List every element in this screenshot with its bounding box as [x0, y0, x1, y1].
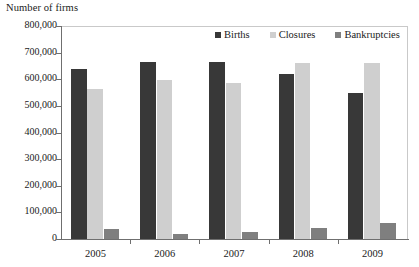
bar-births-2006: [140, 62, 156, 239]
bar-closures-2005: [87, 89, 103, 239]
x-axis-separator: [338, 239, 339, 244]
bar-births-2005: [71, 69, 87, 239]
legend-item-bankruptcies: Bankruptcies: [335, 29, 399, 41]
legend-swatch-births: [215, 32, 221, 38]
y-axis-tick-label: 700,000: [25, 46, 58, 58]
legend-item-closures: Closures: [270, 29, 316, 41]
y-axis-tick-label: 200,000: [25, 179, 58, 191]
y-axis-tick-mark: [56, 79, 61, 80]
bar-bankruptcies-2009: [380, 223, 396, 239]
y-axis-tick-label: 0: [52, 232, 57, 244]
bar-closures-2009: [364, 63, 380, 239]
bar-bankruptcies-2008: [311, 228, 327, 239]
y-axis-tick-mark: [56, 239, 61, 240]
bar-closures-2006: [157, 80, 173, 239]
legend-swatch-bankruptcies: [335, 32, 341, 38]
bar-chart: Number of firms 800,000700,000600,000500…: [0, 0, 419, 267]
y-axis-tick-mark: [56, 159, 61, 160]
x-axis-separator: [130, 239, 131, 244]
y-axis-tick-mark: [56, 212, 61, 213]
bar-bankruptcies-2006: [173, 234, 189, 239]
x-axis-label-2005: 2005: [61, 247, 130, 260]
y-axis-tick-mark: [56, 106, 61, 107]
x-axis-separator: [199, 239, 200, 244]
y-axis-tick-label: 500,000: [25, 99, 58, 111]
legend-item-births: Births: [215, 29, 250, 41]
bar-bankruptcies-2005: [104, 229, 120, 239]
bar-births-2008: [279, 74, 295, 239]
x-axis-label-2009: 2009: [338, 247, 407, 260]
bar-births-2007: [209, 62, 225, 239]
y-axis-tick-label: 600,000: [25, 72, 58, 84]
y-axis-tick-label: 400,000: [25, 126, 58, 138]
x-axis-label-2008: 2008: [269, 247, 338, 260]
legend-label-bankruptcies: Bankruptcies: [344, 29, 399, 41]
bar-closures-2007: [226, 83, 242, 239]
bar-closures-2008: [295, 63, 311, 239]
y-axis-tick-label: 100,000: [25, 205, 58, 217]
x-axis-label-2006: 2006: [130, 247, 199, 260]
x-axis-line: [61, 239, 409, 240]
x-axis-separator: [269, 239, 270, 244]
y-axis-tick-mark: [56, 133, 61, 134]
legend-label-births: Births: [224, 29, 250, 41]
y-axis-tick-mark: [56, 53, 61, 54]
y-axis-tick-mark: [56, 26, 61, 27]
bars-layer: [62, 26, 408, 239]
chart-legend: BirthsClosuresBankruptcies: [215, 29, 400, 41]
y-axis-title: Number of firms: [6, 2, 78, 14]
y-axis-tick-label: 300,000: [25, 152, 58, 164]
y-axis-tick-mark: [56, 186, 61, 187]
legend-label-closures: Closures: [279, 29, 316, 41]
bar-bankruptcies-2007: [242, 232, 258, 239]
x-axis-label-2007: 2007: [199, 247, 268, 260]
y-axis-tick-label: 800,000: [25, 19, 58, 31]
legend-swatch-closures: [270, 32, 276, 38]
bar-births-2009: [348, 93, 364, 239]
